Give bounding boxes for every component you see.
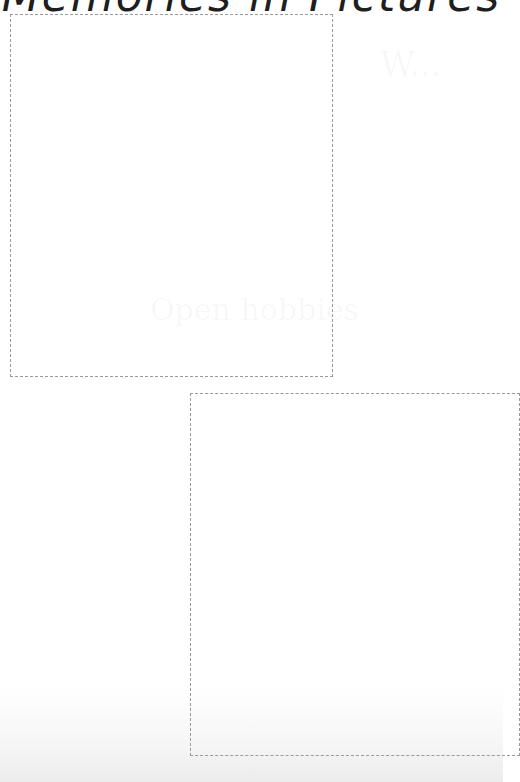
photo-frame-1 bbox=[10, 14, 333, 377]
show-through-text-top: W... bbox=[380, 44, 441, 84]
photo-frame-2 bbox=[190, 393, 520, 756]
